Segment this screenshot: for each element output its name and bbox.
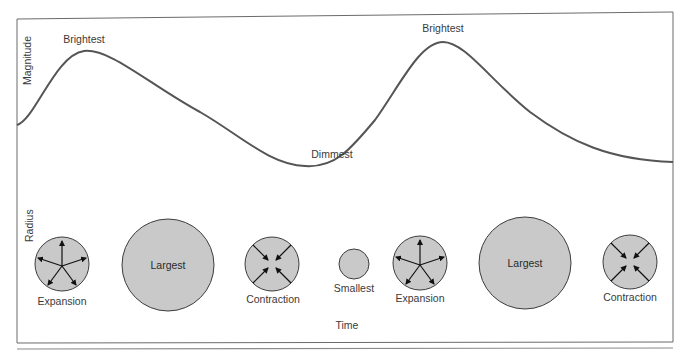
diagram-frame (17, 12, 673, 349)
contraction-star-1 (245, 237, 299, 291)
smallest-star (339, 249, 369, 279)
largest-label-1: Largest (150, 259, 185, 271)
smallest-label: Smallest (334, 282, 374, 294)
contraction-star-2 (603, 235, 657, 289)
contraction-label-1: Contraction (246, 293, 300, 305)
contraction-label-2: Contraction (603, 291, 657, 303)
brightest-label-1: Brightest (63, 33, 105, 45)
expansion-label-2: Expansion (395, 292, 444, 304)
expansion-label-1: Expansion (37, 295, 86, 307)
pulsating-star-diagram: Magnitude Radius Time Brightest Dimmest … (0, 0, 688, 354)
brightest-label-2: Brightest (422, 22, 464, 34)
magnitude-axis-label: Magnitude (21, 36, 33, 85)
expansion-star-2 (393, 236, 447, 290)
time-axis-label: Time (336, 319, 359, 331)
largest-label-2: Largest (507, 257, 542, 269)
radius-axis-label: Radius (23, 209, 35, 242)
expansion-star-1 (35, 237, 89, 291)
dimmest-label: Dimmest (311, 148, 352, 160)
